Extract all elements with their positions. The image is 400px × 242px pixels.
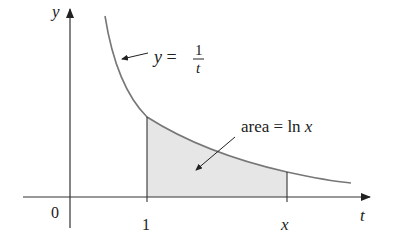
tick-label-x: x <box>280 215 289 234</box>
curve-label-numerator: 1 <box>195 42 203 58</box>
curve-label-denominator: t <box>196 60 201 76</box>
area-under-hyperbola-diagram: y t 0 1 x y = 1 t area = ln x <box>0 0 400 242</box>
y-axis-label: y <box>50 2 60 21</box>
area-label: area = ln x <box>241 117 313 136</box>
t-axis-label: t <box>360 206 366 225</box>
curve-label-arrow-icon <box>122 53 148 59</box>
origin-label: 0 <box>51 204 59 221</box>
curve-label-lhs: y = <box>152 47 177 67</box>
tick-label-one: 1 <box>142 216 150 233</box>
